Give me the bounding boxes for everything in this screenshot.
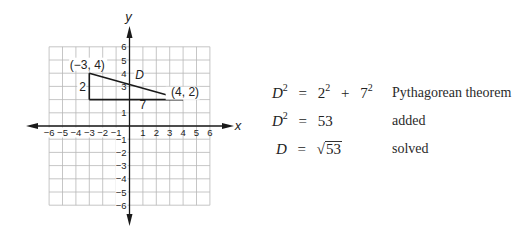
- x-tick-label: −4: [70, 127, 81, 138]
- equation-row-solved: D = √53 solved: [276, 141, 342, 163]
- variable-d: D: [276, 141, 287, 157]
- x-tick-label: −5: [57, 127, 68, 138]
- y-tick-label: 1: [121, 107, 126, 118]
- y-tick-label: 5: [121, 55, 126, 66]
- variable-d: D: [272, 113, 283, 129]
- exponent: 2: [325, 82, 330, 93]
- equals-sign: =: [298, 141, 306, 157]
- x-tick-label: 6: [207, 127, 212, 138]
- y-tick-label: 6: [121, 41, 126, 52]
- equation-row-pythagorean: D2 = 22 + 72 Pythagorean theorem: [272, 85, 373, 107]
- hypotenuse-label: D: [135, 68, 144, 82]
- y-tick-label: −6: [116, 200, 127, 211]
- y-tick-label: −2: [116, 147, 127, 158]
- term-b: 7: [360, 85, 368, 101]
- y-tick-label: −4: [116, 173, 127, 184]
- x-tick-label: −2: [97, 127, 108, 138]
- x-axis-label: x: [234, 118, 242, 133]
- point-label-b: (4, 2): [171, 85, 199, 99]
- leg-label-horizontal: 7: [140, 98, 147, 112]
- equation-expression: D2 = 22 + 72: [272, 85, 373, 102]
- y-axis-label: y: [124, 9, 133, 24]
- y-tick-label: −3: [116, 160, 127, 171]
- equals-sign: =: [299, 85, 307, 101]
- equals-sign: =: [299, 113, 307, 129]
- x-tick-label: 2: [154, 127, 159, 138]
- exponent: 2: [368, 82, 373, 93]
- point-label-a: (−3, 4): [70, 58, 105, 72]
- x-tick-label: 1: [140, 127, 145, 138]
- exponent: 2: [283, 82, 288, 93]
- x-tick-label: 3: [167, 127, 172, 138]
- coordinate-graph: −6−5−4−3−2−112345665431−1−2−3−4−5−6 (−3,…: [0, 0, 260, 229]
- square-root-icon: √: [317, 141, 325, 158]
- x-tick-label: 4: [180, 127, 185, 138]
- equation-expression: D2 = 53: [272, 113, 333, 130]
- x-tick-label: −3: [84, 127, 95, 138]
- x-tick-label: 5: [194, 127, 199, 138]
- radicand: 53: [325, 141, 342, 157]
- y-tick-label: −5: [116, 187, 127, 198]
- step-note: added: [392, 113, 425, 129]
- result-value: 53: [318, 113, 333, 129]
- variable-d: D: [272, 85, 283, 101]
- step-note: solved: [392, 141, 429, 157]
- leg-label-vertical: 2: [79, 80, 86, 94]
- exponent: 2: [283, 110, 288, 121]
- equation-expression: D = √53: [276, 141, 342, 158]
- step-note: Pythagorean theorem: [392, 85, 511, 101]
- plus-sign: +: [341, 85, 349, 101]
- axes: [26, 26, 234, 226]
- y-tick-label: 4: [121, 68, 126, 79]
- x-tick-label: −6: [44, 127, 55, 138]
- y-tick-label: −1: [116, 134, 127, 145]
- equation-row-added: D2 = 53 added: [272, 113, 333, 135]
- figure-labels: (−3, 4)(4, 2)27Dxy: [69, 9, 242, 133]
